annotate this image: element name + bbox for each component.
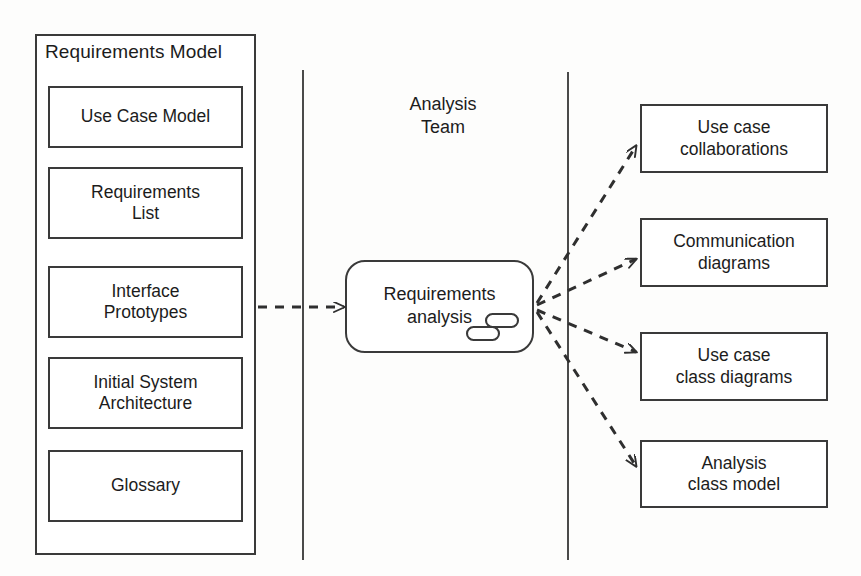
artifact-glossary[interactable]: Glossary (48, 450, 243, 522)
output-analysis-class-model[interactable]: Analysis class model (640, 440, 828, 508)
requirements-analysis-activity[interactable]: Requirements analysis (345, 260, 534, 353)
swimlane-divider-left (302, 70, 304, 560)
requirements-model-title: Requirements Model (45, 41, 222, 63)
output-use-case-collaborations[interactable]: Use case collaborations (640, 104, 828, 173)
output-communication-diagrams[interactable]: Communication diagrams (640, 218, 828, 287)
output-use-case-class-diagrams[interactable]: Use case class diagrams (640, 332, 828, 401)
artifact-interface-prototypes[interactable]: Interface Prototypes (48, 266, 243, 338)
artifact-use-case-model[interactable]: Use Case Model (48, 86, 243, 148)
swimlane-divider-right (567, 72, 569, 560)
analysis-team-lane-label: Analysis Team (368, 93, 518, 138)
artifact-initial-system-architecture[interactable]: Initial System Architecture (48, 357, 243, 429)
artifact-requirements-list[interactable]: Requirements List (48, 167, 243, 239)
diagram-canvas: Requirements Model Use Case Model Requir… (0, 0, 861, 576)
subactivity-icon (464, 311, 522, 343)
